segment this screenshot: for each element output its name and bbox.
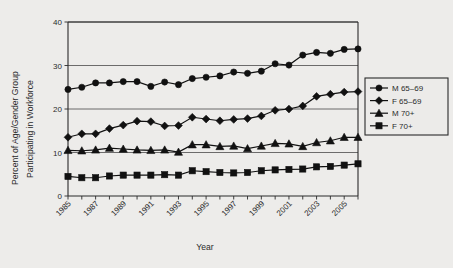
data-point <box>120 78 126 84</box>
data-point <box>231 170 237 176</box>
x-axis-label: Year <box>196 242 214 252</box>
y-tick-label-20: 20 <box>53 105 62 114</box>
y-tick-label-0: 0 <box>58 192 63 201</box>
line-chart: 010203040 198519871989199119931995199719… <box>0 0 453 268</box>
legend-marker <box>376 123 382 129</box>
data-point <box>244 70 250 76</box>
data-point <box>327 163 333 169</box>
data-point <box>65 86 71 92</box>
legend-marker <box>376 85 382 91</box>
data-point <box>258 168 264 174</box>
data-point <box>189 75 195 81</box>
data-point <box>313 49 319 55</box>
chart-legend: M 65–69F 65–69M 70+F 70+ <box>365 78 448 135</box>
data-point <box>189 168 195 174</box>
y-tick-label-40: 40 <box>53 18 62 27</box>
y-tick-label-10: 10 <box>53 149 62 158</box>
data-point <box>106 80 112 86</box>
data-point <box>79 84 85 90</box>
data-point <box>217 169 223 175</box>
data-point <box>272 167 278 173</box>
legend-label: M 70+ <box>392 109 415 118</box>
data-point <box>258 68 264 74</box>
data-point <box>106 173 112 179</box>
data-point <box>134 78 140 84</box>
data-point <box>217 73 223 79</box>
data-point <box>175 172 181 178</box>
data-point <box>341 46 347 52</box>
data-point <box>286 166 292 172</box>
data-point <box>355 46 361 52</box>
data-point <box>93 175 99 181</box>
data-point <box>175 82 181 88</box>
data-point <box>65 173 71 179</box>
data-point <box>231 69 237 75</box>
data-point <box>203 74 209 80</box>
y-axis-label-line2: Participating in Workforce <box>25 80 35 178</box>
data-point <box>327 50 333 56</box>
data-point <box>355 161 361 167</box>
data-point <box>79 175 85 181</box>
data-point <box>134 172 140 178</box>
data-point <box>244 169 250 175</box>
y-axis-label-line1: Percent of Age/Gender Group <box>10 71 20 185</box>
data-point <box>341 162 347 168</box>
data-point <box>93 80 99 86</box>
data-point <box>203 169 209 175</box>
data-point <box>286 62 292 68</box>
data-point <box>162 172 168 178</box>
legend-label: F 70+ <box>392 122 413 131</box>
data-point <box>300 166 306 172</box>
data-point <box>272 61 278 67</box>
data-point <box>148 83 154 89</box>
legend-label: F 65–69 <box>392 97 422 106</box>
data-point <box>120 172 126 178</box>
data-point <box>148 172 154 178</box>
data-point <box>300 52 306 58</box>
y-tick-label-30: 30 <box>53 62 62 71</box>
chart-figure: 010203040 198519871989199119931995199719… <box>0 0 453 268</box>
data-point <box>313 164 319 170</box>
legend-label: M 65–69 <box>392 84 424 93</box>
data-point <box>162 79 168 85</box>
